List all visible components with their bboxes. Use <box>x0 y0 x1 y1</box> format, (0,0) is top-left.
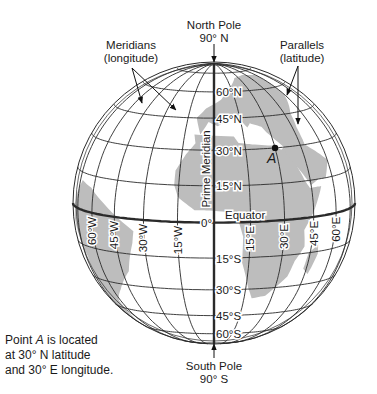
latitude-label: 15°S <box>216 253 241 265</box>
longitude-label: 15°E <box>244 226 256 251</box>
longitude-label: 30°W <box>138 224 150 252</box>
latitude-label: 45°S <box>216 310 241 322</box>
point-a-label: A <box>266 150 276 166</box>
latitude-label: 45°N <box>216 113 242 125</box>
meridians-label: Meridians (longitude) <box>96 39 166 65</box>
south-pole-label: South Pole 90° S <box>178 360 250 386</box>
latitude-label: 30°S <box>216 284 241 296</box>
prime-meridian-label: Prime Meridian <box>200 130 212 207</box>
longitude-label: 60°E <box>330 216 342 241</box>
latitude-label: 60°N <box>216 86 242 98</box>
origin-label: 0° <box>201 217 212 229</box>
latitude-label: 60°S <box>216 328 241 340</box>
caption: Point A is located at 30° N latitude and… <box>5 333 113 378</box>
latitude-label: 30°N <box>216 145 242 157</box>
longitude-label: 45°E <box>308 221 320 246</box>
longitude-label: 30°E <box>279 224 291 249</box>
longitude-label: 60°W <box>86 217 98 245</box>
parallels-label: Parallels (latitude) <box>269 39 335 65</box>
equator-label: Equator <box>225 209 265 221</box>
parallel-arrow-1 <box>287 66 298 95</box>
latitude-label: 15°N <box>216 180 242 192</box>
longitude-label: 45°W <box>108 221 120 249</box>
north-pole-label: North Pole 90° N <box>178 19 250 45</box>
longitude-label: 15°W <box>172 226 184 254</box>
